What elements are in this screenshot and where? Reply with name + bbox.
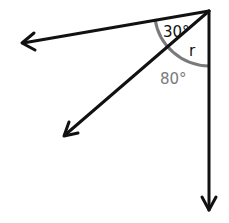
label-angle-80: 80° [160,70,187,88]
angle-diagram: 30° r 80° [0,0,229,223]
label-angle-r: r [189,42,196,60]
label-angle-30: 30° [163,23,190,41]
